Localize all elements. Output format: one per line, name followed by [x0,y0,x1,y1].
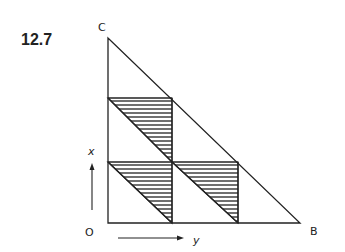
axis-label-y: y [192,234,200,247]
axis-label-x: x [87,145,95,158]
triangle-diagram: C O B x y [0,0,345,252]
vertex-label-o: O [85,226,94,239]
vertex-label-c: C [98,21,106,34]
vertex-label-b: B [310,225,318,238]
main-triangle [108,38,300,223]
